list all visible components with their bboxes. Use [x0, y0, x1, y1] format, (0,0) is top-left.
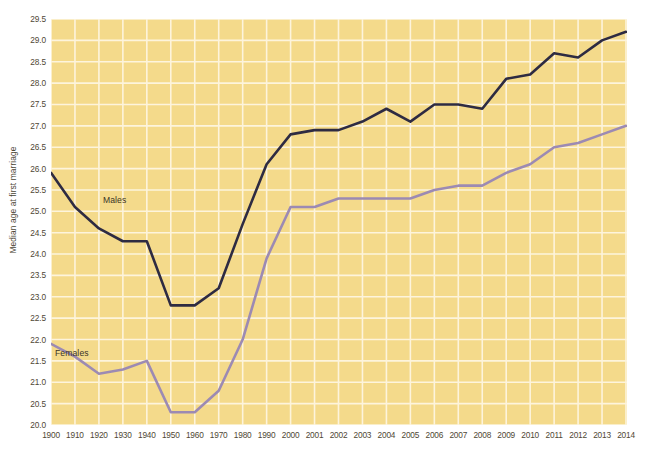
series-label-males: Males — [103, 195, 126, 205]
median-age-first-marriage-chart: Median age at first marriage 29.529.028.… — [0, 0, 649, 451]
x-tick-label: 2014 — [609, 430, 643, 440]
plot-svg — [51, 19, 627, 425]
plot-area: Males Females — [51, 19, 627, 425]
series-label-females: Females — [55, 348, 89, 358]
